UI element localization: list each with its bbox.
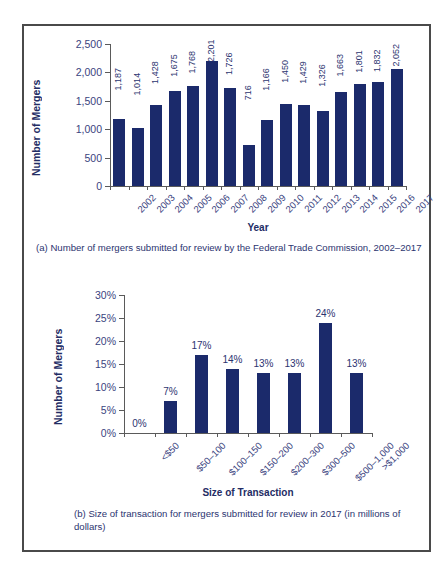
x-tick-mark: [388, 186, 389, 190]
x-tick-label: 2014: [357, 192, 380, 215]
y-axis-line: [124, 295, 125, 433]
x-tick-mark: [147, 186, 148, 190]
bar-value-label: 13%: [248, 358, 279, 369]
x-tick-mark: [332, 186, 333, 190]
x-tick-mark: [110, 186, 111, 190]
x-tick-mark: [203, 186, 204, 190]
bar: [224, 88, 236, 186]
x-tick-mark: [166, 186, 167, 190]
x-tick-mark: [295, 186, 296, 190]
y-tick-mark: [105, 158, 110, 159]
y-tick-label: 1,500: [62, 95, 102, 107]
bar: [169, 91, 181, 186]
chart-a-x-axis-title: Year: [110, 222, 406, 233]
x-tick-label: 2015: [376, 192, 399, 215]
x-tick-label: $50–100: [193, 440, 227, 474]
x-tick-label: 2005: [191, 192, 214, 215]
x-tick-label: 2007: [228, 192, 251, 215]
y-axis-line: [110, 44, 111, 186]
x-tick-label: 2002: [135, 192, 158, 215]
bar: [372, 82, 384, 186]
y-tick-label: 2,500: [62, 38, 102, 50]
chart-b-plot-area: 0%5%10%15%20%25%30%0%<$507%$50–10017%$10…: [124, 295, 372, 433]
y-tick-label: 5%: [76, 404, 116, 416]
bar: [261, 120, 273, 186]
bar: [288, 373, 301, 433]
y-tick-label: 0: [62, 180, 102, 192]
caption-panel-b: (b) Size of transaction for mergers subm…: [74, 508, 414, 533]
bar: [187, 86, 199, 186]
x-tick-label: 2003: [154, 192, 177, 215]
y-tick-label: 2,000: [62, 66, 102, 78]
y-tick-mark: [119, 387, 124, 388]
x-tick-label: 2008: [246, 192, 269, 215]
x-tick-mark: [184, 186, 185, 190]
x-tick-label: 2006: [209, 192, 232, 215]
bar-value-label: 7%: [155, 386, 186, 397]
bar: [113, 119, 125, 186]
bar-value-label: 17%: [186, 340, 217, 351]
x-tick-mark: [221, 186, 222, 190]
chart-b-y-axis-title: Number of Mergers: [52, 307, 64, 425]
y-tick-mark: [119, 341, 124, 342]
bar-value-label: 1,428: [150, 44, 160, 101]
bar: [206, 61, 218, 186]
y-tick-mark: [105, 101, 110, 102]
y-tick-mark: [105, 44, 110, 45]
bar-value-label: 716: [243, 44, 253, 141]
x-tick-mark: [369, 186, 370, 190]
bar-value-label: 1,166: [261, 44, 271, 116]
y-tick-label: 10%: [76, 381, 116, 393]
bar-value-label: 1,663: [335, 44, 345, 88]
x-tick-mark: [124, 433, 125, 437]
bar-value-label: 1,429: [298, 44, 308, 101]
x-tick-mark: [372, 433, 373, 437]
y-tick-mark: [119, 410, 124, 411]
bar: [354, 84, 366, 186]
y-tick-mark: [105, 129, 110, 130]
bar-value-label: 1,014: [132, 44, 142, 124]
bar: [298, 105, 310, 186]
figure-frame: Number of Mergers 05001,0001,5002,0002,5…: [22, 24, 431, 552]
y-tick-mark: [105, 72, 110, 73]
x-tick-mark: [217, 433, 218, 437]
y-tick-label: 30%: [76, 289, 116, 301]
y-tick-mark: [119, 318, 124, 319]
chart-a-y-axis-title: Number of Mergers: [30, 56, 42, 176]
bar: [150, 105, 162, 186]
bar: [257, 373, 270, 433]
x-tick-mark: [351, 186, 352, 190]
bar-value-label: 1,832: [372, 44, 382, 78]
bar-value-label: 14%: [217, 354, 248, 365]
bar-value-label: 1,450: [280, 44, 290, 100]
x-tick-label: $100–150: [226, 440, 264, 478]
bar: [391, 69, 403, 186]
y-tick-label: 25%: [76, 312, 116, 324]
x-tick-mark: [240, 186, 241, 190]
x-tick-mark: [406, 186, 407, 190]
x-tick-mark: [279, 433, 280, 437]
bar-value-label: 13%: [279, 358, 310, 369]
bar: [317, 111, 329, 186]
y-tick-label: 500: [62, 152, 102, 164]
bar: [335, 92, 347, 186]
x-tick-mark: [341, 433, 342, 437]
y-tick-label: 0%: [76, 427, 116, 439]
caption-panel-a: (a) Number of mergers submitted for revi…: [36, 242, 422, 255]
x-tick-mark: [155, 433, 156, 437]
x-tick-label: 2009: [265, 192, 288, 215]
bar: [132, 128, 144, 186]
x-tick-label: 2016: [394, 192, 417, 215]
bar-value-label: 1,675: [169, 44, 179, 87]
bar-value-label: 24%: [310, 308, 341, 319]
bar: [319, 323, 332, 433]
x-tick-label: 2011: [302, 192, 324, 214]
y-tick-mark: [119, 295, 124, 296]
x-tick-mark: [129, 186, 130, 190]
bar-value-label: 1,801: [354, 44, 364, 80]
x-tick-mark: [310, 433, 311, 437]
bar: [195, 355, 208, 433]
bar: [280, 104, 292, 186]
chart-a-plot-area: 05001,0001,5002,0002,5001,18720021,01420…: [110, 44, 406, 186]
bar-value-label: 2,201: [206, 44, 216, 57]
